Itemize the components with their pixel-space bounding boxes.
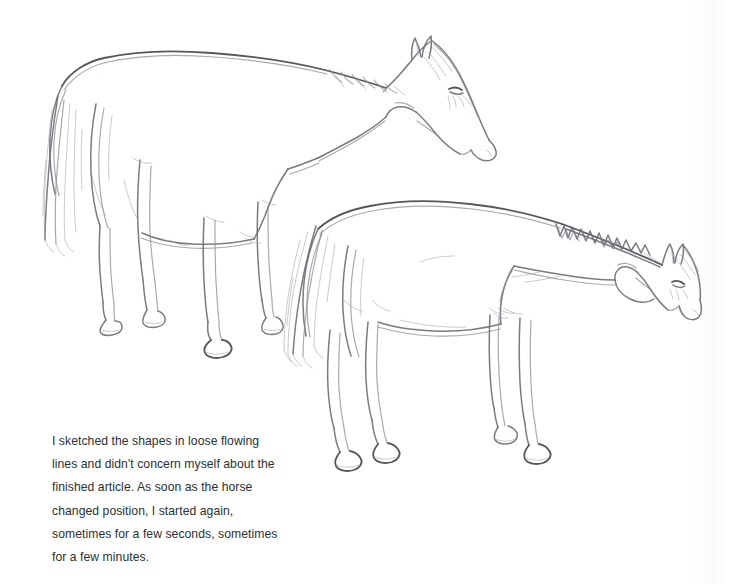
- horse-upper-left-drawing: [43, 36, 496, 358]
- sketchbook-page: I sketched the shapes in loose flowing l…: [0, 0, 735, 584]
- sketch-caption: I sketched the shapes in loose flowing l…: [52, 430, 302, 569]
- horse-lower-right-drawing: [284, 201, 701, 471]
